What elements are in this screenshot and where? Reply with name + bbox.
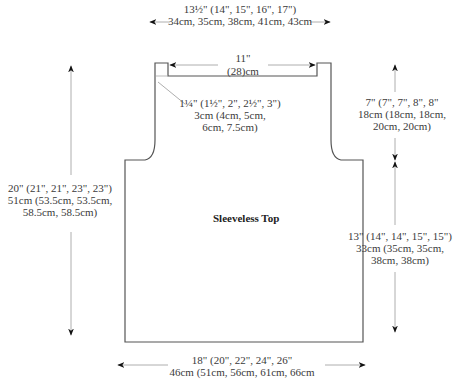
shoulder-width-label: 13½" (14", 15", 16", 17") 34cm, 35cm, 38… — [160, 3, 320, 27]
bottom-width-imperial: 18" (20", 22", 24", 26" — [162, 354, 322, 366]
neck-width-metric: (28)cm — [213, 65, 273, 77]
neck-width-imperial: 11" — [213, 52, 273, 64]
neck-depth-label: 1¼" (1½", 2", 2½", 3") 3cm (4cm, 5cm, 6c… — [175, 97, 285, 133]
armhole-depth-imperial: 7" (7", 7", 8", 8" — [352, 96, 452, 108]
neck-depth-metric-1: 3cm (4cm, 5cm, — [175, 109, 285, 121]
total-length-label: 20" (21", 21", 23", 23") 51cm (53.5cm, 5… — [0, 182, 132, 218]
shoulder-width-metric: 34cm, 35cm, 38cm, 41cm, 43cm — [160, 15, 320, 27]
side-length-label: 13" (14", 14", 15", 15") 33cm (35cm, 35c… — [338, 230, 462, 266]
neck-depth-metric-2: 6cm, 7.5cm) — [175, 121, 285, 133]
shoulder-width-imperial: 13½" (14", 15", 16", 17") — [160, 3, 320, 15]
total-length-imperial: 20" (21", 21", 23", 23") — [0, 182, 132, 194]
total-length-metric-1: 51cm (53.5cm, 53.5cm, — [0, 194, 132, 206]
garment-title: Sleeveless Top — [213, 212, 279, 224]
side-length-metric-2: 38cm, 38cm) — [338, 254, 462, 266]
neck-depth-imperial: 1¼" (1½", 2", 2½", 3") — [175, 97, 285, 109]
side-length-imperial: 13" (14", 14", 15", 15") — [338, 230, 462, 242]
armhole-depth-metric-1: 18cm (18cm, 18cm, — [352, 108, 452, 120]
side-length-metric-1: 33cm (35cm, 35cm, — [338, 242, 462, 254]
bottom-width-metric: 46cm (51cm, 56cm, 61cm, 66cm — [162, 366, 322, 378]
neck-width-label: 11" (28)cm — [213, 52, 273, 77]
bottom-width-label: 18" (20", 22", 24", 26" 46cm (51cm, 56cm… — [162, 354, 322, 378]
armhole-depth-metric-2: 20cm, 20cm) — [352, 120, 452, 132]
armhole-depth-label: 7" (7", 7", 8", 8" 18cm (18cm, 18cm, 20c… — [352, 96, 452, 132]
total-length-metric-2: 58.5cm, 58.5cm) — [0, 206, 132, 218]
